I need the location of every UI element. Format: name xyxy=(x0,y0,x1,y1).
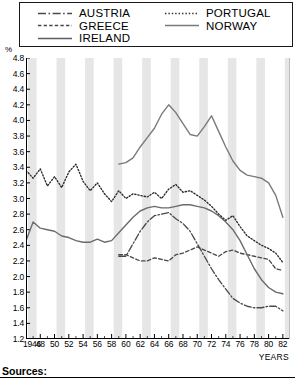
y-tick-label: 2.8 xyxy=(0,209,24,219)
x-tick-label: 58 xyxy=(107,339,116,349)
x-tick-label: 82 xyxy=(278,339,287,349)
dotted-line-icon xyxy=(165,8,199,19)
x-axis-title: YEARS xyxy=(259,352,289,362)
x-tick-label: 62 xyxy=(136,339,145,349)
legend-item-austria: AUSTRIA xyxy=(38,7,130,20)
background-band xyxy=(171,58,180,339)
legend-item-greece: GREECE xyxy=(38,20,130,33)
legend-label-ireland: IRELAND xyxy=(79,32,130,44)
legend-label-portugal: PORTUGAL xyxy=(206,7,271,19)
dashed-line-icon xyxy=(38,20,72,31)
legend-item-portugal: PORTUGAL xyxy=(165,7,271,20)
y-tick-label: 4.8 xyxy=(0,53,24,63)
y-tick-label: 4.6 xyxy=(0,69,24,79)
background-bands xyxy=(28,58,290,339)
x-tick-label: 64 xyxy=(150,339,159,349)
y-tick-label: 1.4 xyxy=(0,318,24,328)
y-tick-label: 4.4 xyxy=(0,84,24,94)
x-tick-label: 74 xyxy=(221,339,230,349)
y-tick-label: 2.2 xyxy=(0,256,24,266)
background-band xyxy=(142,58,151,339)
x-tick-label: 50 xyxy=(50,339,59,349)
legend-item-ireland: IRELAND xyxy=(38,32,130,45)
legend-column-right: PORTUGAL NORWAY xyxy=(165,7,271,32)
y-tick-label: 1.8 xyxy=(0,287,24,297)
y-tick-label: 3.0 xyxy=(0,194,24,204)
y-tick-label: 2.4 xyxy=(0,240,24,250)
legend-column-left: AUSTRIA GREECE IRELAND xyxy=(38,7,130,45)
legend-label-norway: NORWAY xyxy=(206,20,257,32)
x-tick-label: 54 xyxy=(79,339,88,349)
y-tick-label: 1.6 xyxy=(0,303,24,313)
x-tick-label: 76 xyxy=(236,339,245,349)
chart-plot-area xyxy=(26,58,290,339)
x-axis-tick-labels: 1946485052545658606264666870727476788082 xyxy=(0,339,295,353)
y-tick-label: 4.0 xyxy=(0,115,24,125)
y-axis-tick-labels: 4.84.64.44.24.03.83.63.43.23.02.82.62.42… xyxy=(0,50,24,345)
legend-box: AUSTRIA GREECE IRELAND xyxy=(19,2,293,47)
y-tick-label: 2.0 xyxy=(0,272,24,282)
line-chart-svg xyxy=(26,58,290,339)
solid-line-icon xyxy=(38,33,72,44)
legend-label-greece: GREECE xyxy=(79,20,129,32)
x-tick-label: 48 xyxy=(36,339,45,349)
background-band xyxy=(199,58,208,339)
x-tick-label: 66 xyxy=(164,339,173,349)
x-tick-label: 52 xyxy=(64,339,73,349)
background-band xyxy=(57,58,66,339)
x-tick-label: 68 xyxy=(178,339,187,349)
x-tick-label: 56 xyxy=(93,339,102,349)
x-tick-label: 60 xyxy=(121,339,130,349)
dash-dot-line-icon xyxy=(38,8,72,19)
x-tick-label: 70 xyxy=(193,339,202,349)
x-tick-label: 72 xyxy=(207,339,216,349)
y-tick-label: 3.4 xyxy=(0,162,24,172)
background-band xyxy=(114,58,123,339)
legend-label-austria: AUSTRIA xyxy=(79,7,130,19)
x-tick-label: 78 xyxy=(250,339,259,349)
legend-item-norway: NORWAY xyxy=(165,20,271,33)
background-band xyxy=(256,58,265,339)
y-tick-label: 2.6 xyxy=(0,225,24,235)
sources-label: Sources: xyxy=(2,365,47,377)
y-tick-label: 3.2 xyxy=(0,178,24,188)
solid-line-icon xyxy=(165,20,199,31)
x-tick-label: 80 xyxy=(264,339,273,349)
y-tick-label: 3.8 xyxy=(0,131,24,141)
y-tick-label: 4.2 xyxy=(0,100,24,110)
background-band xyxy=(85,58,94,339)
y-tick-label: 3.6 xyxy=(0,147,24,157)
